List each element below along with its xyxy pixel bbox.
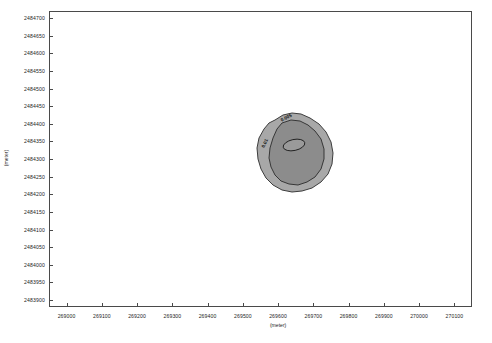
- y-axis-tick: [49, 124, 53, 125]
- plot-area: [49, 11, 472, 307]
- y-axis-tick: [49, 89, 53, 90]
- y-axis-tick-label: 2484100: [1, 227, 45, 233]
- y-axis-tick: [49, 212, 53, 213]
- y-axis-tick: [49, 247, 53, 248]
- y-axis-tick: [49, 71, 53, 72]
- y-axis-tick: [49, 230, 53, 231]
- y-axis-tick-label: 2484700: [1, 15, 45, 21]
- y-axis-tick-label: 2484150: [1, 209, 45, 215]
- y-axis-tick: [49, 265, 53, 266]
- x-axis-tick: [313, 303, 314, 307]
- y-axis-tick: [49, 300, 53, 301]
- x-axis-tick: [208, 303, 209, 307]
- y-axis-tick: [49, 177, 53, 178]
- y-axis-title: (meter): [3, 140, 9, 176]
- y-axis-tick-label: 2483900: [1, 297, 45, 303]
- y-axis-tick: [49, 282, 53, 283]
- y-axis-tick-label: 2484450: [1, 103, 45, 109]
- y-axis-tick-label: 2484500: [1, 86, 45, 92]
- x-axis-tick: [243, 303, 244, 307]
- y-axis-tick: [49, 159, 53, 160]
- y-axis-tick: [49, 194, 53, 195]
- y-axis-tick: [49, 18, 53, 19]
- x-axis-tick: [349, 303, 350, 307]
- y-axis-tick-label: 2483950: [1, 279, 45, 285]
- x-axis-tick: [67, 303, 68, 307]
- y-axis-tick: [49, 141, 53, 142]
- y-axis-tick-label: 2484050: [1, 244, 45, 250]
- y-axis-tick-label: 2484400: [1, 121, 45, 127]
- x-axis-title: (meter): [248, 322, 308, 328]
- y-axis-tick: [49, 106, 53, 107]
- x-axis-tick: [454, 303, 455, 307]
- y-axis-tick: [49, 36, 53, 37]
- y-axis-tick-label: 2484550: [1, 68, 45, 74]
- x-axis-tick: [102, 303, 103, 307]
- y-axis-tick-label: 2484000: [1, 262, 45, 268]
- y-axis-tick-label: 2484200: [1, 191, 45, 197]
- x-axis-tick: [384, 303, 385, 307]
- x-axis-tick: [137, 303, 138, 307]
- y-axis-tick-label: 2484650: [1, 33, 45, 39]
- x-axis-tick: [419, 303, 420, 307]
- y-axis-tick-label: 2484600: [1, 50, 45, 56]
- y-axis-tick: [49, 53, 53, 54]
- contour-map-chart: 2483900248395024840002484050248410024841…: [0, 0, 492, 343]
- x-axis-tick: [172, 303, 173, 307]
- x-axis-tick-label: 270100: [432, 313, 476, 319]
- x-axis-tick: [278, 303, 279, 307]
